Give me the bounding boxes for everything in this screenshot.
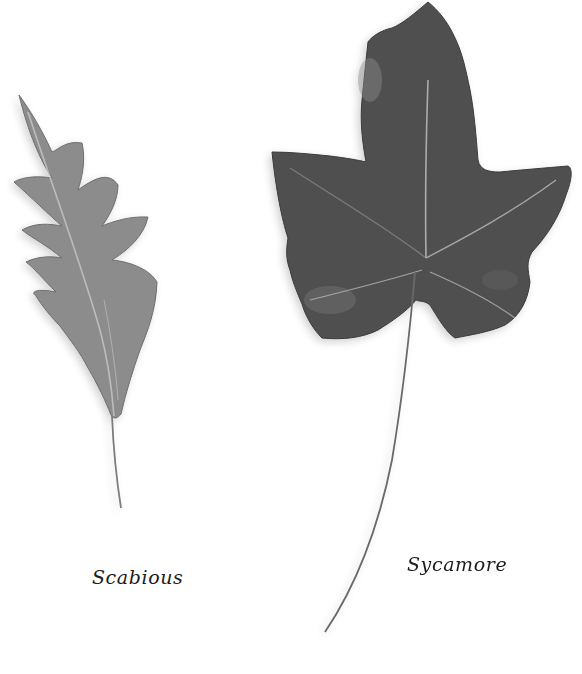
- scabious-leaf: [14, 95, 157, 508]
- botanical-plate: Scabious Sycamore: [0, 0, 582, 674]
- sycamore-leaf: [272, 2, 571, 632]
- caption-sycamore: Sycamore: [407, 553, 507, 575]
- caption-scabious: Scabious: [92, 566, 183, 588]
